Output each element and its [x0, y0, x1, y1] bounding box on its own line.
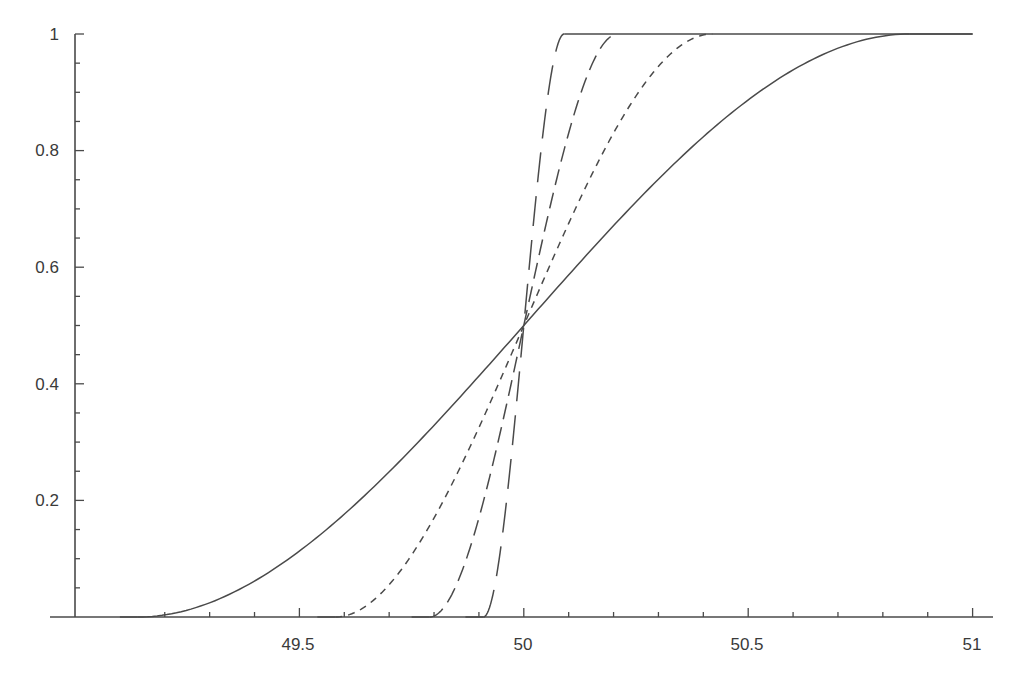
y-tick-label: 0.2: [35, 491, 59, 510]
x-tick-label: 50: [514, 635, 533, 654]
y-tick-label: 0.4: [35, 375, 59, 394]
y-tick-label: 0.8: [35, 141, 59, 160]
x-tick-label: 51: [963, 635, 982, 654]
y-tick-label: 0.6: [35, 258, 59, 277]
y-tick-label: 1: [50, 25, 59, 44]
x-tick-labels: 49.5 50 50.5 51: [281, 635, 981, 654]
y-axis-ticks: [75, 34, 84, 588]
x-tick-label: 50.5: [730, 635, 763, 654]
plot-curves: [120, 34, 973, 617]
axes: [50, 34, 993, 617]
cdf-line-chart: 49.5 50 50.5 51 0.2 0.4 0.6 0.8 1: [0, 0, 1014, 676]
curve-short-dash: [335, 34, 712, 617]
x-tick-label: 49.5: [281, 635, 314, 654]
y-tick-labels: 0.2 0.4 0.6 0.8 1: [35, 25, 59, 510]
x-axis-ticks: [165, 608, 973, 617]
